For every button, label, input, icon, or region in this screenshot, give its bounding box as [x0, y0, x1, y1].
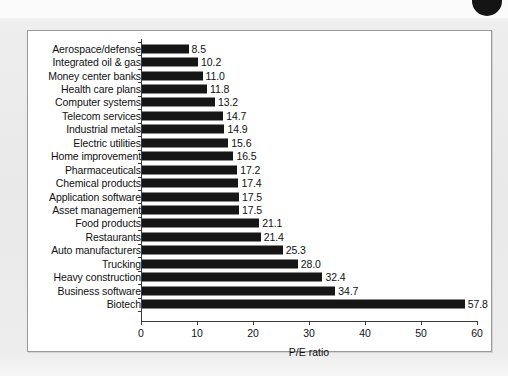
screenshot-page: Aerospace/defense8.5Integrated oil & gas… [0, 0, 508, 376]
bar-row: Business software34.7 [28, 284, 493, 297]
y-axis-tick [138, 244, 142, 245]
bar-category-label: Pharmaceuticals [65, 164, 141, 175]
bar-value-label: 25.3 [286, 245, 306, 256]
page-top-strip [0, 0, 508, 18]
bar [141, 125, 224, 134]
bar [141, 205, 239, 214]
bar-chart: Aerospace/defense8.5Integrated oil & gas… [28, 31, 493, 353]
bar [141, 192, 239, 201]
chart-panel: Aerospace/defense8.5Integrated oil & gas… [27, 30, 492, 352]
bar [141, 219, 259, 228]
y-axis-tick [138, 96, 142, 97]
y-axis-tick [138, 257, 142, 258]
y-axis-tick [138, 190, 142, 191]
bar-category-label: Industrial metals [66, 124, 141, 135]
x-axis-tick-label: 10 [191, 327, 203, 339]
y-axis-tick [138, 177, 142, 178]
bar-row: Asset management17.5 [28, 203, 493, 216]
x-axis-tick [477, 321, 478, 325]
x-axis-tick-label: 40 [359, 327, 371, 339]
bar [141, 300, 465, 309]
bar [141, 85, 207, 94]
bar-row: Trucking28.0 [28, 257, 493, 270]
bar-row: Money center banks11.0 [28, 69, 493, 82]
bar-category-label: Telecom services [62, 110, 141, 121]
bar-category-label: Asset management [52, 204, 141, 215]
bar-category-label: Chemical products [56, 178, 141, 189]
bar-category-label: Integrated oil & gas [53, 57, 141, 68]
bar-category-label: Money center banks [48, 70, 141, 81]
bar-category-label: Heavy construction [54, 272, 142, 283]
bar [141, 273, 322, 282]
bar-value-label: 34.7 [338, 285, 358, 296]
y-axis-tick [138, 298, 142, 299]
bar-row: Restaurants21.4 [28, 230, 493, 243]
bar-value-label: 21.4 [264, 231, 284, 242]
bar-category-label: Food products [75, 218, 141, 229]
bar-category-label: Business software [57, 285, 141, 296]
x-axis-title: P/E ratio [141, 346, 477, 358]
bar-row: Home improvement16.5 [28, 150, 493, 163]
bar-value-label: 17.5 [242, 204, 262, 215]
x-axis-tick-label: 30 [303, 327, 315, 339]
bar-value-label: 28.0 [301, 258, 321, 269]
y-axis-tick [138, 230, 142, 231]
bar [141, 44, 189, 53]
bar-row: Food products21.1 [28, 217, 493, 230]
x-axis-tick [141, 321, 142, 325]
bar-value-label: 57.8 [468, 299, 488, 310]
bar [141, 246, 283, 255]
bar-row: Application software17.5 [28, 190, 493, 203]
bar-row: Computer systems13.2 [28, 96, 493, 109]
bar-row: Electric utilities15.6 [28, 136, 493, 149]
bar-value-label: 17.5 [242, 191, 262, 202]
bar-row: Pharmaceuticals17.2 [28, 163, 493, 176]
bar-value-label: 15.6 [231, 137, 251, 148]
bar-value-label: 21.1 [262, 218, 282, 229]
bar-value-label: 14.7 [226, 110, 246, 121]
bar-rows: Aerospace/defense8.5Integrated oil & gas… [28, 42, 493, 311]
y-axis-tick [138, 123, 142, 124]
x-axis-tick-label: 0 [138, 327, 144, 339]
x-axis-tick [253, 321, 254, 325]
bar-category-label: Electric utilities [73, 137, 141, 148]
bar-value-label: 32.4 [325, 272, 345, 283]
bar-category-label: Aerospace/defense [52, 43, 141, 54]
bar-row: Heavy construction32.4 [28, 270, 493, 283]
y-axis-tick [138, 271, 142, 272]
bar-category-label: Health care plans [61, 84, 141, 95]
bar [141, 179, 238, 188]
y-axis-line [141, 39, 142, 321]
bar-category-label: Home improvement [51, 151, 141, 162]
y-axis-tick [138, 217, 142, 218]
x-axis-tick [365, 321, 366, 325]
bar-row: Industrial metals14.9 [28, 123, 493, 136]
bar-value-label: 13.2 [218, 97, 238, 108]
bar [141, 259, 298, 268]
bar [141, 138, 228, 147]
x-axis-tick [197, 321, 198, 325]
bar-row: Integrated oil & gas10.2 [28, 55, 493, 68]
bar-row: Chemical products17.4 [28, 176, 493, 189]
y-axis-tick [138, 136, 142, 137]
x-axis-tick [421, 321, 422, 325]
bar [141, 111, 223, 120]
bar-value-label: 11.8 [210, 84, 229, 95]
bar-row: Telecom services14.7 [28, 109, 493, 122]
bar-value-label: 11.0 [206, 70, 225, 81]
bar-value-label: 17.4 [241, 178, 261, 189]
y-axis-tick [138, 311, 142, 312]
y-axis-tick [138, 55, 142, 56]
bar-row: Health care plans11.8 [28, 82, 493, 95]
y-axis-tick [138, 203, 142, 204]
bar [141, 152, 233, 161]
y-axis-tick [138, 42, 142, 43]
x-axis-tick-label: 50 [415, 327, 427, 339]
x-axis-tick [309, 321, 310, 325]
bar-category-label: Biotech [107, 299, 141, 310]
y-axis-tick [138, 82, 142, 83]
x-axis-tick-label: 60 [471, 327, 483, 339]
y-axis-tick [138, 163, 142, 164]
bar [141, 58, 198, 67]
bar [141, 71, 203, 80]
